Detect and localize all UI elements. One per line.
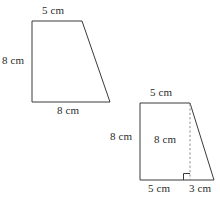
right-trapezoid-left-label: 8 cm xyxy=(110,131,132,142)
right-trapezoid-bottom-left-label: 5 cm xyxy=(148,183,170,194)
geometry-diagram: 5 cm 8 cm 8 cm 5 cm 8 cm 8 cm 5 cm 3 cm xyxy=(0,0,220,202)
left-trapezoid-outline xyxy=(32,21,110,102)
right-trapezoid-top-label: 5 cm xyxy=(150,87,172,98)
left-trapezoid-top-label: 5 cm xyxy=(42,5,64,16)
left-trapezoid-bottom-label: 8 cm xyxy=(57,105,79,116)
right-trapezoid-outline xyxy=(140,103,214,180)
left-trapezoid-left-label: 8 cm xyxy=(2,55,24,66)
right-trapezoid-bottom-right-label: 3 cm xyxy=(189,183,211,194)
diagram-canvas xyxy=(0,0,220,202)
right-trapezoid-height-label: 8 cm xyxy=(154,134,176,145)
